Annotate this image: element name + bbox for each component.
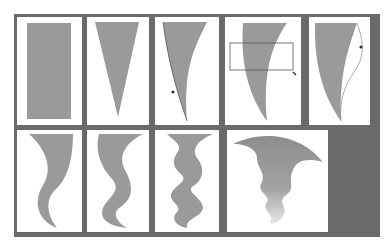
- panel-step-2: [87, 17, 149, 125]
- panel-step-9: [227, 130, 328, 232]
- smoke-plume-shape-icon: [227, 130, 328, 232]
- panel-step-6: [17, 130, 82, 232]
- s-curve-tail-shape-icon: [17, 130, 82, 232]
- rectangle-shape-icon: [17, 17, 82, 125]
- curved-horn-handle-shape-icon: [309, 17, 370, 125]
- panel-step-1: [17, 17, 82, 125]
- double-wave-tail-shape-icon: [87, 130, 149, 232]
- triangle-shape-icon: [87, 17, 149, 125]
- curved-triangle-shape-icon: [155, 17, 219, 125]
- curved-horn-shape-icon: [225, 17, 301, 125]
- panel-step-7: [87, 130, 149, 232]
- panel-step-4: [225, 17, 301, 125]
- panel-step-8: [155, 130, 219, 232]
- panel-step-5: [309, 17, 370, 125]
- multi-wave-tail-shape-icon: [155, 130, 219, 232]
- panel-step-3: [155, 17, 219, 125]
